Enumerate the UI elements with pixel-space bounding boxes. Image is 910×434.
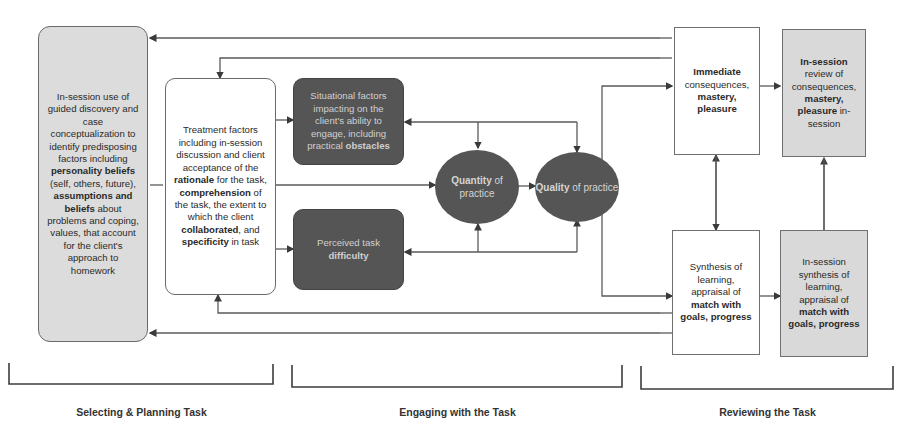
predisposing-factors-text: In-session use of guided discovery and c… [45,91,141,277]
quality-of-practice-text: Quality of practice [536,181,619,194]
treatment-factors-box: Treatment factors including in-session d… [165,78,276,295]
predisposing-factors-box: In-session use of guided discovery and c… [38,26,148,342]
task-difficulty-box: Perceived task difficulty [293,209,404,290]
bracket-reviewing [641,366,893,389]
in-session-review-text: In-session review of consequences, maste… [789,56,859,130]
in-session-review-box: In-session review of consequences, maste… [782,29,866,157]
phase-label-selecting: Selecting & Planning Task [9,406,274,418]
in-session-synthesis-box: In-session synthesis of learning, apprai… [780,230,868,357]
synthesis-of-learning-box: Synthesis of learning, appraisal of matc… [672,230,760,355]
phase-label-reviewing: Reviewing the Task [641,406,894,418]
bracket-selecting [9,363,273,384]
quantity-of-practice-node: Quantity of practice [435,150,519,224]
phase-label-engaging: Engaging with the Task [292,406,623,418]
situational-factors-box: Situational factors impacting on the cli… [293,78,404,165]
synthesis-of-learning-text: Synthesis of learning, appraisal of matc… [679,261,753,323]
in-session-synthesis-text: In-session synthesis of learning, apprai… [787,256,861,330]
quantity-of-practice-text: Quantity of practice [435,174,519,200]
treatment-factors-text: Treatment factors including in-session d… [172,124,269,248]
quality-of-practice-node: Quality of practice [535,152,619,222]
immediate-consequences-text: Immediate consequences, mastery, pleasur… [681,66,753,116]
task-difficulty-text: Perceived task difficulty [300,237,397,262]
situational-factors-text: Situational factors impacting on the cli… [300,90,397,152]
bracket-engaging [292,365,622,387]
immediate-consequences-box: Immediate consequences, mastery, pleasur… [674,27,760,155]
